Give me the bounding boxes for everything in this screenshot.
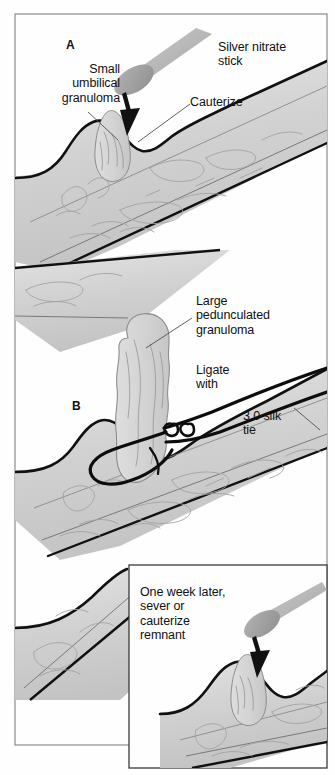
label-ligate-with: Ligate with [196,363,276,392]
panel-a-letter: A [66,38,75,52]
panel-b-letter: B [72,399,81,413]
label-one-week-later: One week later, sever or cauterize remna… [140,585,262,643]
label-small-umbilical-granuloma: Small umbilical granuloma [6,62,120,105]
label-silk-tie: 3.0 silk tie [243,409,321,438]
label-silver-nitrate-stick: Silver nitrate stick [218,40,330,69]
large-pedunculated-granuloma-body [116,314,170,483]
illustration-canvas [0,0,335,775]
label-cauterize: Cauterize [190,95,300,109]
medical-illustration-figure: A Small umbilical granuloma Silver nitra… [0,0,335,775]
label-large-pedunculated-granuloma: Large pedunculated granuloma [196,294,322,337]
